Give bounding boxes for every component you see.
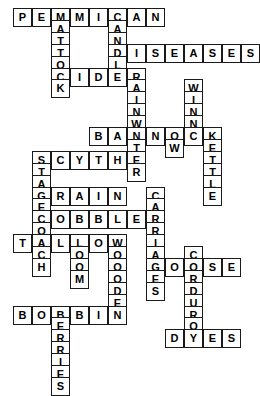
crossword-cell[interactable]: D — [89, 68, 108, 87]
crossword-cell[interactable]: A — [108, 127, 127, 146]
crossword-cell[interactable]: T — [89, 151, 108, 170]
crossword-cell[interactable]: E — [108, 68, 127, 87]
crossword-cell[interactable]: B — [70, 306, 89, 325]
crossword-cell[interactable]: E — [203, 329, 222, 348]
crossword-cell[interactable]: O — [165, 258, 184, 277]
crossword-cell[interactable]: M — [70, 8, 89, 27]
crossword-cell[interactable]: N — [108, 187, 127, 206]
crossword-cell[interactable]: H — [32, 258, 51, 277]
crossword-cell[interactable]: P — [13, 8, 32, 27]
crossword-cell[interactable]: E — [32, 8, 51, 27]
crossword-cell[interactable]: S — [203, 44, 222, 63]
crossword-cell[interactable]: B — [70, 210, 89, 229]
crossword-cell[interactable]: M — [70, 270, 89, 289]
crossword-cell[interactable]: W — [165, 139, 184, 158]
crossword-cell[interactable]: Y — [70, 151, 89, 170]
crossword-cell[interactable]: K — [51, 79, 70, 98]
crossword-cell[interactable]: S — [241, 44, 260, 63]
crossword-cell[interactable]: B — [13, 306, 32, 325]
crossword-cell[interactable]: A — [184, 44, 203, 63]
crossword-cell[interactable]: S — [51, 377, 70, 396]
crossword-cell[interactable]: I — [89, 306, 108, 325]
crossword-cell[interactable]: C — [51, 151, 70, 170]
crossword-cell[interactable]: R — [51, 187, 70, 206]
crossword-cell[interactable]: C — [184, 127, 203, 146]
crossword-cell[interactable]: L — [51, 234, 70, 253]
crossword-cell[interactable]: S — [222, 329, 241, 348]
crossword-cell[interactable]: A — [127, 8, 146, 27]
crossword-cell[interactable]: N — [146, 8, 165, 27]
crossword-cell[interactable]: S — [203, 258, 222, 277]
crossword-cell[interactable]: R — [127, 163, 146, 182]
crossword-cell[interactable]: A — [70, 187, 89, 206]
crossword-cell[interactable]: H — [108, 151, 127, 170]
crossword-cell[interactable]: O — [51, 210, 70, 229]
crossword-cell[interactable]: E — [222, 44, 241, 63]
crossword-cell[interactable]: O — [89, 234, 108, 253]
crossword-cell[interactable]: E — [127, 210, 146, 229]
crossword-cell[interactable]: E — [165, 44, 184, 63]
crossword-cell[interactable]: I — [89, 187, 108, 206]
crossword-cell[interactable]: N — [146, 127, 165, 146]
crossword-cell[interactable]: S — [146, 282, 165, 301]
crossword-cell[interactable]: B — [89, 210, 108, 229]
crossword-cell[interactable]: S — [146, 44, 165, 63]
crossword-cell[interactable]: O — [32, 306, 51, 325]
crossword-cell[interactable]: I — [70, 68, 89, 87]
crossword-cell[interactable]: Y — [184, 329, 203, 348]
crossword-cell[interactable]: D — [165, 329, 184, 348]
crossword-cell[interactable]: I — [127, 44, 146, 63]
crossword-cell[interactable]: L — [108, 210, 127, 229]
crossword-cell[interactable]: E — [203, 187, 222, 206]
crossword-cell[interactable]: B — [89, 127, 108, 146]
crossword-cell[interactable]: T — [13, 234, 32, 253]
crossword-cell[interactable]: N — [108, 306, 127, 325]
crossword-cell[interactable]: E — [222, 258, 241, 277]
crossword-cell[interactable]: I — [89, 8, 108, 27]
